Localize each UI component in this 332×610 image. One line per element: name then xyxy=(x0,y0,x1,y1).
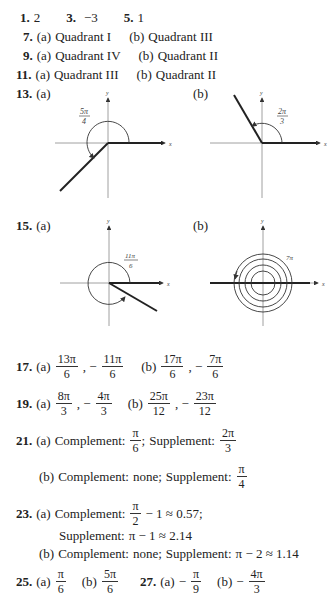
part-label: (a) xyxy=(36,506,50,522)
part-label: (b) xyxy=(82,574,97,590)
answer-row-21b: (b) Complement: none; Supplement: π4 xyxy=(39,463,248,490)
svg-text:y: y xyxy=(106,218,110,224)
answer-value: Quadrant III xyxy=(54,67,119,83)
angle-diagram-13b: y x 2π 3 xyxy=(210,90,332,205)
answer-row-11: 11. (a) Quadrant III (b) Quadrant II xyxy=(16,67,216,83)
problem-number: 25. xyxy=(16,574,32,590)
problem-number: 19. xyxy=(16,396,32,412)
fraction: 25π12 xyxy=(148,390,170,417)
fraction: 5π6 xyxy=(102,568,118,595)
fraction: 4π3 xyxy=(249,568,265,595)
problem-number: 27. xyxy=(140,574,156,590)
part-label: (a) xyxy=(36,574,50,590)
fraction: π9 xyxy=(191,568,201,595)
svg-text:y: y xyxy=(105,90,109,96)
svg-text:6: 6 xyxy=(129,262,133,270)
answer-value: Quadrant II xyxy=(156,67,216,83)
part-label: (b) xyxy=(139,48,154,64)
svg-text:5π: 5π xyxy=(80,107,89,116)
answer-row-25-27: 25. (a) π6 (b) 5π6 27. (a) − π9 (b) − 4π… xyxy=(16,568,266,595)
fraction: 11π6 xyxy=(102,353,124,380)
fraction: π6 xyxy=(56,568,66,595)
part-label: (a) xyxy=(36,86,50,102)
part-label: (a) xyxy=(37,48,51,64)
answer-value: Quadrant III xyxy=(148,29,213,45)
answer-row-21a: 21. (a) Complement: π6 ; Supplement: 2π3 xyxy=(16,427,237,454)
part-label: (b) xyxy=(39,546,54,562)
part-label: (a) xyxy=(36,433,50,449)
angle-diagram-15a: y x 11π 6 xyxy=(55,218,180,328)
fraction: π2 xyxy=(130,500,140,527)
svg-text:x: x xyxy=(321,281,325,287)
problem-number: 1. xyxy=(20,10,30,26)
problem-number: 15. xyxy=(16,218,32,234)
svg-text:4: 4 xyxy=(82,117,86,126)
answer-row-9: 9. (a) Quadrant IV (b) Quadrant II xyxy=(23,48,218,64)
answer-row-19: 19. (a) 8π3 , − 4π3 (b) 25π12 , − 23π12 xyxy=(16,390,217,417)
answer-row-17: 17. (a) 13π6 , − 11π6 (b) 17π6 , − 7π6 xyxy=(16,353,224,380)
part-label: (a) xyxy=(36,67,50,83)
answer-row-23a-supplement: Supplement: π − 1 ≈ 2.14 xyxy=(59,528,192,544)
answer-row-7: 7. (a) Quadrant I (b) Quadrant III xyxy=(23,29,213,45)
problem-number: 13. xyxy=(16,86,32,102)
answer-value: Quadrant II xyxy=(158,48,218,64)
answer-row-23a: 23. (a) Complement: π2 − 1 ≈ 0.57; xyxy=(16,500,203,527)
problem-number: 5. xyxy=(124,10,134,26)
part-label: (a) xyxy=(160,574,174,590)
part-label: (b) xyxy=(217,574,232,590)
problem-13-label: 13. (a) xyxy=(16,86,51,102)
angle-label-7pi: 7π xyxy=(286,254,294,262)
fraction: 4π3 xyxy=(96,390,112,417)
svg-text:11π: 11π xyxy=(125,252,135,260)
part-label: (b) xyxy=(193,86,208,102)
problem-number: 11. xyxy=(16,67,32,83)
svg-text:x: x xyxy=(323,141,327,147)
answer-value: 1 xyxy=(138,10,145,26)
problem-15-label: 15. (a) xyxy=(16,218,51,234)
angle-diagram-13a: y x 5π 4 xyxy=(55,90,180,205)
problem-number: 9. xyxy=(23,48,33,64)
angle-diagram-15b: y x 7π xyxy=(210,218,332,328)
fraction: 23π12 xyxy=(194,390,216,417)
svg-text:x: x xyxy=(168,141,172,147)
fraction: π6 xyxy=(130,427,140,454)
fraction: 7π6 xyxy=(207,353,223,380)
part-label: (b) xyxy=(141,359,156,375)
problem-number: 23. xyxy=(16,506,32,522)
fraction: 17π6 xyxy=(161,353,183,380)
problem-number: 7. xyxy=(23,29,33,45)
problem-number: 17. xyxy=(16,359,32,375)
answer-value: Quadrant I xyxy=(55,29,111,45)
answer-value: −3 xyxy=(84,10,98,26)
part-label: (b) xyxy=(129,29,144,45)
fraction: 13π6 xyxy=(56,353,78,380)
svg-text:3: 3 xyxy=(279,117,284,126)
answer-row-23b: (b) Complement: none; Supplement: π − 2 … xyxy=(39,546,299,562)
svg-text:x: x xyxy=(166,281,170,287)
part-label: (a) xyxy=(36,218,50,234)
problem-number: 21. xyxy=(16,433,32,449)
svg-text:y: y xyxy=(259,90,263,96)
fraction: 8π3 xyxy=(56,390,72,417)
svg-text:2π: 2π xyxy=(278,107,287,116)
part-label: (b) xyxy=(137,67,152,83)
svg-text:y: y xyxy=(260,218,264,224)
problem-number: 3. xyxy=(66,10,76,26)
part-label: (a) xyxy=(36,359,50,375)
fraction: 2π3 xyxy=(220,427,236,454)
fraction: π4 xyxy=(237,463,247,490)
answer-row-1-3-5: 1. 2 3. −3 5. 1 xyxy=(20,10,144,26)
answer-value: Quadrant IV xyxy=(55,48,120,64)
part-label: (b) xyxy=(193,218,208,234)
part-label: (a) xyxy=(36,396,50,412)
part-label: (b) xyxy=(39,469,54,485)
part-label: (a) xyxy=(37,29,51,45)
answer-value: 2 xyxy=(34,10,41,26)
part-label: (b) xyxy=(128,396,143,412)
